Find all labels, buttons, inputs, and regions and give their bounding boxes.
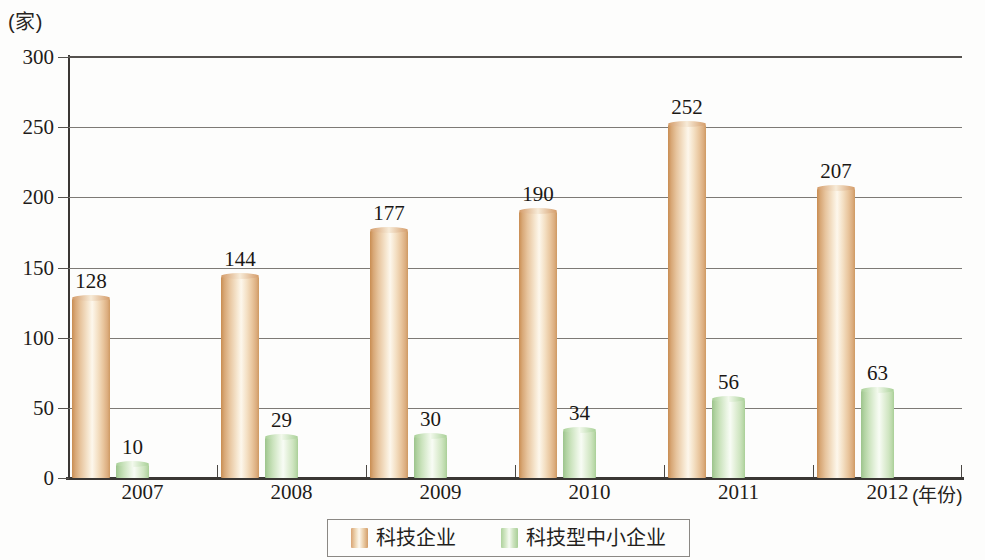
x-tick-label: 2010 — [515, 481, 664, 504]
data-label: 29 — [251, 410, 312, 431]
data-label: 10 — [102, 437, 163, 458]
bar-cap — [668, 121, 706, 127]
bar-cap — [116, 461, 149, 467]
data-label: 207 — [803, 161, 869, 182]
data-label: 63 — [847, 363, 908, 384]
bar-cap — [563, 427, 596, 433]
legend-item-2[interactable]: 科技型中小企业 — [501, 527, 666, 549]
y-tick-mark — [58, 478, 69, 479]
legend-label: 科技企业 — [376, 527, 456, 549]
plot-area — [68, 57, 962, 478]
y-tick-label: 150 — [2, 258, 54, 279]
chart-canvas: (家) (年份) 300250200150100500 200720082009… — [0, 0, 985, 560]
bar-cap — [370, 227, 408, 233]
data-label: 252 — [654, 97, 720, 118]
bar-2011-series1 — [668, 124, 706, 478]
y-axis-unit-label: (家) — [8, 6, 43, 35]
bar-2009-series2 — [414, 436, 447, 478]
cylinder-green-icon — [501, 528, 518, 548]
x-tick-label: 2008 — [217, 481, 366, 504]
bar-2012-series1 — [817, 188, 855, 478]
bar-2011-series2 — [712, 399, 745, 478]
bar-cap — [712, 396, 745, 402]
bar-2007-series2 — [116, 464, 149, 478]
x-tick-label: 2011 — [664, 481, 813, 504]
x-tick-label: 2012 — [813, 481, 962, 504]
y-tick-label: 200 — [2, 187, 54, 208]
bar-cap — [817, 185, 855, 191]
bar-cap — [861, 387, 894, 393]
bar-2010-series2 — [563, 430, 596, 478]
chart-legend: 科技企业科技型中小企业 — [327, 519, 690, 557]
data-label: 190 — [505, 184, 571, 205]
data-label: 144 — [207, 249, 273, 270]
x-tick-label: 2009 — [366, 481, 515, 504]
legend-label: 科技型中小企业 — [526, 527, 666, 549]
y-tick-label: 250 — [2, 117, 54, 138]
y-tick-label: 100 — [2, 328, 54, 349]
bar-2010-series1 — [519, 211, 557, 478]
bar-2009-series1 — [370, 230, 408, 478]
y-tick-label: 300 — [2, 47, 54, 68]
data-label: 30 — [400, 409, 461, 430]
cylinder-orange-icon — [351, 528, 368, 548]
x-tick-label: 2007 — [68, 481, 217, 504]
data-label: 128 — [58, 271, 124, 292]
bar-2012-series2 — [861, 390, 894, 478]
y-tick-label: 50 — [2, 398, 54, 419]
data-label: 34 — [549, 403, 610, 424]
bar-2008-series1 — [221, 276, 259, 478]
bar-2008-series2 — [265, 437, 298, 478]
bar-cap — [72, 295, 110, 301]
y-tick-label: 0 — [2, 468, 54, 489]
bar-cap — [221, 273, 259, 279]
bar-cap — [519, 208, 557, 214]
data-label: 56 — [698, 372, 759, 393]
bar-cap — [265, 434, 298, 440]
legend-item-1[interactable]: 科技企业 — [351, 527, 456, 549]
bar-cap — [414, 433, 447, 439]
data-label: 177 — [356, 203, 422, 224]
